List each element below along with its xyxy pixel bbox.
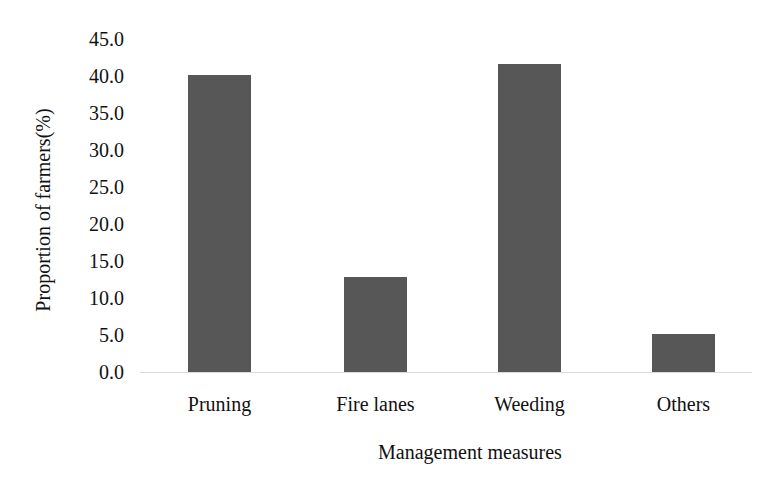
y-tick-label: 45.0: [64, 29, 124, 49]
y-tick-label: 25.0: [64, 177, 124, 197]
y-axis-title: Proportion of farmers(%): [32, 108, 55, 311]
bar-others: [652, 334, 715, 372]
y-tick-label: 40.0: [64, 66, 124, 86]
y-tick-label: 10.0: [64, 288, 124, 308]
x-axis-title: Management measures: [240, 441, 700, 464]
x-tick-label: Pruning: [150, 393, 290, 415]
y-tick-label: 5.0: [64, 325, 124, 345]
y-tick-label: 35.0: [64, 103, 124, 123]
bar-fire-lanes: [344, 277, 407, 372]
y-tick-label: 15.0: [64, 251, 124, 271]
y-tick-label: 30.0: [64, 140, 124, 160]
x-tick-label: Weeding: [460, 393, 600, 415]
x-axis-line: [140, 372, 752, 373]
bar-chart: 0.05.010.015.020.025.030.035.040.045.0 P…: [0, 0, 766, 494]
y-tick-label: 20.0: [64, 214, 124, 234]
x-tick-label: Others: [614, 393, 754, 415]
bar-pruning: [188, 75, 251, 372]
y-tick-label: 0.0: [64, 362, 124, 382]
bar-weeding: [498, 64, 561, 372]
x-tick-label: Fire lanes: [306, 393, 446, 415]
